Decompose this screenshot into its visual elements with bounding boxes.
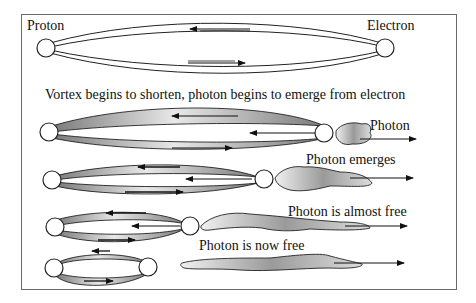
electron-circle	[255, 170, 273, 188]
stage-3-vortex: Photon is almost free	[46, 204, 407, 242]
electron-label: Electron	[367, 18, 414, 33]
proton-circle	[40, 123, 58, 141]
stage-initial-vortex: Proton Electron	[27, 18, 414, 73]
photon-now-free-label: Photon is now free	[199, 238, 304, 253]
electron-circle	[139, 258, 157, 276]
proton-circle	[45, 259, 63, 277]
stage-2-vortex: Photon emerges	[43, 152, 413, 194]
electron-circle	[315, 124, 333, 142]
proton-circle	[37, 39, 55, 57]
electron-circle	[181, 217, 199, 235]
photon-label: Photon	[370, 118, 410, 133]
photon-emerges-label: Photon emerges	[306, 152, 396, 167]
electron-circle	[376, 39, 394, 57]
proton-circle	[43, 171, 61, 189]
proton-label: Proton	[27, 18, 64, 33]
vortex-photon-diagram: Proton Electron Vortex begins to shorten…	[0, 0, 476, 303]
photon-almost-free-label: Photon is almost free	[288, 204, 407, 219]
stage-1-vortex: Photon	[40, 108, 416, 149]
photon-shape	[336, 123, 371, 145]
caption-text: Vortex begins to shorten, photon begins …	[45, 87, 405, 102]
stage-4-vortex: Photon is now free	[45, 238, 404, 285]
proton-circle	[46, 218, 64, 236]
photon-shape	[275, 167, 372, 191]
